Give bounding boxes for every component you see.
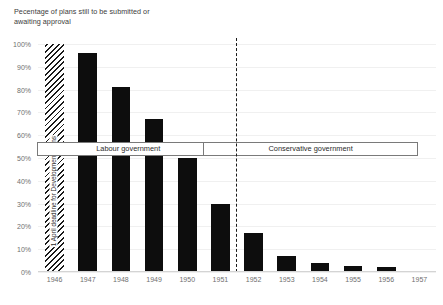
- gridline: [38, 204, 436, 205]
- bar: [211, 204, 230, 272]
- gridline: [38, 44, 436, 45]
- y-axis-tick-label: 20%: [17, 223, 31, 230]
- y-axis-tick-label: 100%: [13, 41, 31, 48]
- labour-government-label: Labour government: [37, 142, 219, 156]
- bar: [244, 233, 263, 272]
- x-axis-tick-label: 1949: [146, 276, 162, 283]
- x-axis-tick-label: 1952: [246, 276, 262, 283]
- y-axis: 0%10%20%30%40%50%60%70%80%90%100%: [0, 44, 34, 272]
- x-axis-tick-label: 1947: [80, 276, 96, 283]
- y-axis-tick-label: 60%: [17, 132, 31, 139]
- gridline: [38, 135, 436, 136]
- x-axis-line: [38, 271, 436, 272]
- bar: [112, 87, 131, 272]
- chart-container: Pecentage of plans still to be submitted…: [0, 0, 443, 305]
- x-axis-tick-label: 1948: [113, 276, 129, 283]
- y-axis-tick-label: 40%: [17, 177, 31, 184]
- x-axis-tick-label: 1956: [378, 276, 394, 283]
- bar: [178, 158, 197, 272]
- gridline: [38, 112, 436, 113]
- y-axis-tick-label: 80%: [17, 86, 31, 93]
- plot-area: 1 April deadline for Development PlansLa…: [38, 44, 436, 272]
- x-axis-tick-label: 1957: [412, 276, 428, 283]
- government-change-divider: [236, 38, 237, 272]
- y-axis-tick-label: 70%: [17, 109, 31, 116]
- gridline: [38, 158, 436, 159]
- chart-title: Pecentage of plans still to be submitted…: [14, 7, 164, 27]
- y-axis-tick-label: 90%: [17, 63, 31, 70]
- gridline: [38, 226, 436, 227]
- gridline: [38, 249, 436, 250]
- y-axis-tick-label: 50%: [17, 155, 31, 162]
- y-axis-tick-label: 0%: [21, 269, 31, 276]
- gridline: [38, 67, 436, 68]
- gridline: [38, 272, 436, 273]
- x-axis-tick-label: 1954: [312, 276, 328, 283]
- x-axis-tick-label: 1955: [345, 276, 361, 283]
- x-axis-tick-label: 1950: [179, 276, 195, 283]
- x-axis-tick-label: 1946: [47, 276, 63, 283]
- bar: [277, 256, 296, 272]
- x-axis-tick-label: 1953: [279, 276, 295, 283]
- y-axis-tick-label: 10%: [17, 246, 31, 253]
- y-axis-tick-label: 30%: [17, 200, 31, 207]
- x-axis-tick-label: 1951: [213, 276, 229, 283]
- bar: [78, 53, 97, 272]
- gridline: [38, 181, 436, 182]
- gridline: [38, 90, 436, 91]
- x-axis: 1946194719481949195019511952195319541955…: [38, 276, 436, 290]
